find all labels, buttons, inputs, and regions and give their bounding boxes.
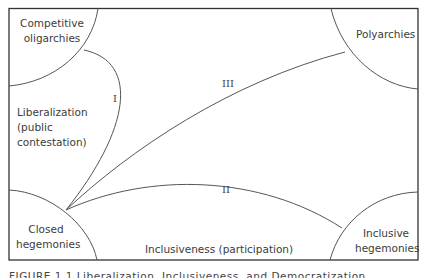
y-axis-label-line3: contestation) xyxy=(17,135,88,150)
label-closed-line2: hegemonies xyxy=(16,237,76,252)
label-inclusive-hegemonies: Inclusive hegemonies xyxy=(355,226,417,256)
path-label-ii: II xyxy=(222,184,230,195)
path-iii-curve xyxy=(66,52,345,210)
label-inclusive-line1: Inclusive xyxy=(355,226,417,241)
label-inclusive-line2: hegemonies xyxy=(355,241,417,256)
label-competitive-oligarchies: Competitive oligarchies xyxy=(18,16,86,46)
path-label-iii: III xyxy=(222,78,234,89)
y-axis-label-line1: Liberalization xyxy=(17,105,88,120)
arc-polyarchies xyxy=(331,9,418,90)
label-competitive-line1: Competitive xyxy=(18,16,86,31)
label-polyarchies: Polyarchies xyxy=(356,27,415,42)
label-closed-line1: Closed xyxy=(16,222,76,237)
label-competitive-line2: oligarchies xyxy=(18,31,86,46)
path-label-i: I xyxy=(113,93,117,104)
label-closed-hegemonies: Closed hegemonies xyxy=(16,222,76,252)
figure-caption: FIGURE 1.1 Liberalization, Inclusiveness… xyxy=(9,270,366,278)
path-ii-curve xyxy=(66,184,342,228)
y-axis-label: Liberalization (public contestation) xyxy=(17,105,88,150)
y-axis-label-line2: (public xyxy=(17,120,88,135)
x-axis-label: Inclusiveness (participation) xyxy=(145,242,293,257)
